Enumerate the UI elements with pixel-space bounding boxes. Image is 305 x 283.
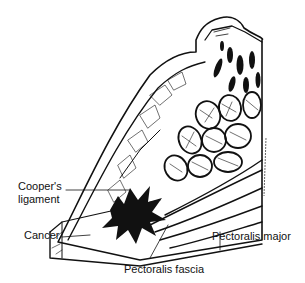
artist-signature (264, 138, 266, 196)
leader-cancer (62, 235, 90, 237)
label-pectoralis-fascia: Pectoralis fascia (124, 263, 204, 276)
label-line: Cooper's (18, 180, 62, 193)
label-line: ligament (18, 193, 62, 206)
cancer-mass (102, 186, 166, 244)
label-coopers-ligament: Cooper's ligament (18, 180, 62, 206)
label-cancer: Cancer (24, 229, 59, 242)
label-pectoralis-major: Pectoralis major (212, 230, 291, 243)
ducts (212, 41, 261, 93)
